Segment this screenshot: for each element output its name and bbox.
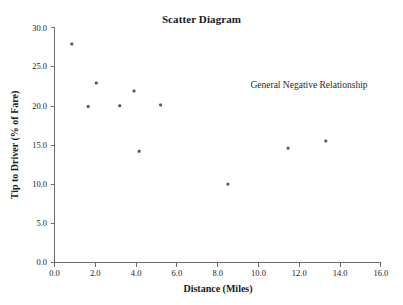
y-tick-label: 5.0 (36, 218, 47, 228)
y-tick-label: 0.0 (36, 257, 47, 267)
scatter-chart-figure: Scatter Diagram 0.0 5.0 10.0 15.0 20.0 2… (0, 0, 403, 305)
x-tick-label: 16.0 (373, 268, 388, 278)
x-tick-label: 10.0 (251, 268, 266, 278)
y-tick-label: 20.0 (32, 101, 47, 111)
x-tick-label: 4.0 (131, 268, 142, 278)
annotation-label: General Negative Relationship (250, 80, 367, 90)
y-tick-label: 15.0 (32, 140, 47, 150)
data-point (324, 140, 327, 143)
x-tick-label: 6.0 (172, 268, 183, 278)
x-axis-title: Distance (Miles) (183, 283, 252, 295)
x-tick-label: 12.0 (292, 268, 307, 278)
x-tick-label: 8.0 (212, 268, 223, 278)
data-point (70, 42, 73, 45)
plot-area: 0.0 5.0 10.0 15.0 20.0 25.0 30.0 0.0 2.0… (0, 0, 403, 305)
x-tick-label: 14.0 (333, 268, 348, 278)
y-tick-label: 10.0 (32, 179, 47, 189)
x-tick-label: 0.0 (49, 268, 60, 278)
y-tick-label: 30.0 (32, 23, 47, 33)
data-points-layer (70, 42, 327, 185)
data-point (226, 183, 229, 186)
data-point (95, 82, 98, 85)
y-axis-title: Tip to Driver (% of Fare) (9, 91, 21, 200)
data-point (138, 150, 141, 153)
data-point (87, 105, 90, 108)
x-tick-label: 2.0 (90, 268, 101, 278)
data-point (133, 89, 136, 92)
data-point (287, 147, 290, 150)
y-tick-label: 25.0 (32, 61, 47, 71)
x-axis-ticks (55, 263, 381, 267)
y-axis-ticks (51, 28, 55, 263)
data-point (118, 104, 121, 107)
data-point (159, 104, 162, 107)
